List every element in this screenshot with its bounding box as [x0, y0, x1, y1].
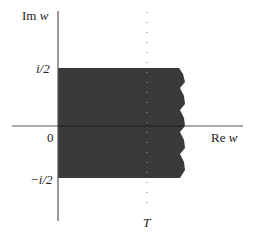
- real-axis-label: Re w: [211, 131, 237, 144]
- origin-label: 0: [47, 131, 54, 144]
- T-text: T: [143, 215, 150, 230]
- imaginary-axis-label: Im w: [22, 9, 48, 22]
- tick-label-lower: −i/2: [30, 173, 53, 186]
- lower-tick-text: −i/2: [30, 172, 53, 187]
- im-text: Im: [22, 8, 36, 23]
- re-text: Re: [211, 130, 225, 145]
- shaded-strip-region: [58, 68, 185, 178]
- re-var: w: [229, 130, 238, 145]
- complex-plane-figure: [0, 0, 258, 243]
- upper-tick-text: i/2: [36, 61, 50, 76]
- tick-label-upper: i/2: [36, 62, 50, 75]
- im-var: w: [40, 8, 49, 23]
- origin-text: 0: [47, 130, 54, 145]
- T-label: T: [143, 216, 150, 229]
